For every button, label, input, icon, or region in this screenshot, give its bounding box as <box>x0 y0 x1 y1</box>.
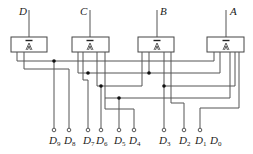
gate-B <box>138 37 174 52</box>
input-D: D <box>18 5 29 37</box>
terminal-D3 <box>162 128 166 132</box>
input-C: C <box>80 5 90 37</box>
junction-dot <box>99 84 103 88</box>
output-label-D8: D8 <box>63 134 76 148</box>
output-label-D7: D7 <box>82 134 95 148</box>
decoder-circuit-diagram: D C B A <box>0 0 253 154</box>
wiring <box>17 52 239 128</box>
output-label-D3: D3 <box>158 134 171 148</box>
gate-C <box>72 37 109 52</box>
output-label-D5: D5 <box>113 134 126 148</box>
terminal-D7 <box>86 128 90 132</box>
junction-dot <box>162 84 166 88</box>
terminal-D8 <box>67 128 71 132</box>
output-label-D1: D1 <box>194 134 207 148</box>
terminal-D9 <box>52 128 56 132</box>
input-label-D: D <box>18 5 27 17</box>
junction-dot <box>147 71 151 75</box>
output-label-D9: D9 <box>48 134 61 148</box>
terminal-D6 <box>99 128 103 132</box>
input-label-C: C <box>80 5 88 17</box>
output-label-D6: D6 <box>95 134 108 148</box>
input-B: B <box>157 5 167 37</box>
input-A: A <box>226 5 237 37</box>
terminal-D2 <box>182 128 186 132</box>
junction-dot <box>86 71 90 75</box>
terminal-D4 <box>132 128 136 132</box>
gate-A <box>207 37 244 52</box>
junction-dot <box>52 59 56 63</box>
output-label-D2: D2 <box>178 134 191 148</box>
terminal-D1 <box>198 128 202 132</box>
output-label-D0: D0 <box>209 134 222 148</box>
output-label-D4: D4 <box>128 134 141 148</box>
output-labels: D9 D8 D7 D6 D5 D4 D3 D2 D1 D0 <box>48 134 222 148</box>
junction-dot <box>117 96 121 100</box>
input-label-A: A <box>229 5 237 17</box>
input-label-B: B <box>160 5 167 17</box>
output-terminals <box>52 128 202 132</box>
terminal-D5 <box>117 128 121 132</box>
gate-D <box>11 37 47 52</box>
